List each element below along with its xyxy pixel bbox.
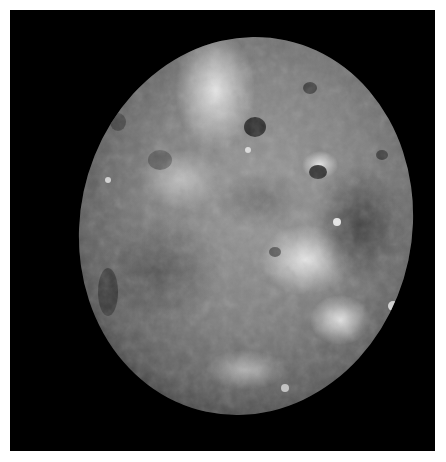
moon [10, 10, 435, 451]
moon-photo [10, 10, 435, 451]
photo-frame [10, 10, 435, 451]
